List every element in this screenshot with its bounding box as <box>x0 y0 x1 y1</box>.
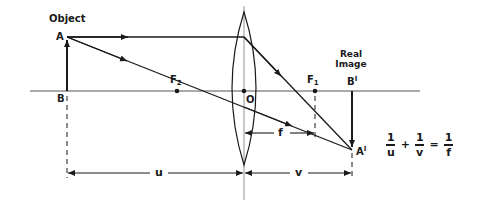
focus-2-letter: F <box>170 74 177 85</box>
denominator: f <box>446 147 451 158</box>
focus-2-label: F2 <box>170 75 182 87</box>
focus-1-dot <box>313 89 318 94</box>
a-prime-letter: A <box>356 146 364 157</box>
distance-v-label: v <box>295 167 302 178</box>
fraction-one-over-f: 1 f <box>444 132 454 158</box>
ray-center-arrow-1 <box>67 37 127 61</box>
lens-formula: 1 u + 1 v = 1 f <box>384 132 455 158</box>
plus-sign: + <box>401 138 410 151</box>
focus-1-subscript: 1 <box>314 79 319 87</box>
optical-center-label: O <box>246 95 255 105</box>
focus-2-subscript: 2 <box>177 79 182 87</box>
focus-1-letter: F <box>307 74 314 85</box>
focus-2-dot <box>175 89 180 94</box>
point-b-label: B <box>57 94 65 104</box>
denominator: u <box>387 147 395 158</box>
numerator: 1 <box>386 132 396 143</box>
a-prime-mark: I <box>364 145 367 153</box>
numerator: 1 <box>444 132 454 143</box>
point-a-prime-label: AI <box>356 146 366 157</box>
b-prime-letter: B <box>347 76 355 87</box>
b-prime-mark: I <box>355 75 358 83</box>
real-image-label-line2: Image <box>331 60 371 69</box>
distance-f-label: f <box>278 127 283 138</box>
point-b-prime-label: BI <box>347 76 357 87</box>
ray-refracted-arrow <box>244 37 281 76</box>
numerator: 1 <box>415 132 425 143</box>
real-image-label-line1: Real <box>331 50 371 59</box>
fraction-one-over-v: 1 v <box>415 132 425 158</box>
focus-1-label: F1 <box>307 75 319 87</box>
point-a-label: A <box>56 32 64 42</box>
denominator: v <box>416 147 423 158</box>
fraction-one-over-u: 1 u <box>386 132 396 158</box>
distance-u-label: u <box>155 167 163 178</box>
equals-sign: = <box>430 138 439 151</box>
optical-center-dot <box>242 89 247 94</box>
object-label: Object <box>49 14 86 24</box>
ray-center-arrow-2 <box>244 107 292 126</box>
